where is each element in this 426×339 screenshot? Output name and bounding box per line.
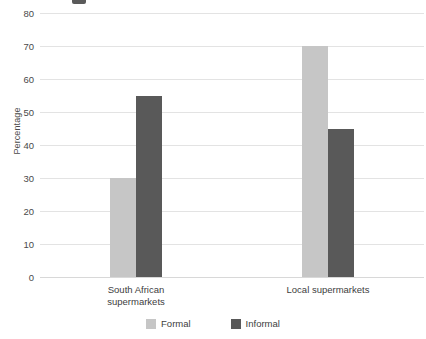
legend-swatch-icon (146, 319, 156, 329)
y-axis-tick-label: 0 (29, 272, 34, 283)
bar-informal (136, 96, 162, 278)
legend-swatch-icon (231, 319, 241, 329)
bar-chart: Percentage 80706050403020100 South Afric… (0, 0, 426, 339)
plot-area: 80706050403020100 (40, 13, 424, 277)
legend-item[interactable]: Informal (231, 318, 280, 329)
bar-group (232, 13, 424, 277)
chart-legend: FormalInformal (0, 318, 426, 329)
cropped-top-artifact (72, 0, 86, 4)
y-axis-tick-label: 70 (23, 41, 34, 52)
y-axis-tick-label: 20 (23, 206, 34, 217)
x-axis-category-label: South African supermarkets (40, 284, 232, 307)
legend-label: Formal (161, 318, 191, 329)
bar-formal (302, 46, 328, 277)
bar-formal (110, 178, 136, 277)
bar-informal (328, 129, 354, 278)
legend-label: Informal (246, 318, 280, 329)
y-axis-tick-label: 80 (23, 8, 34, 19)
y-axis-tick-label: 30 (23, 173, 34, 184)
x-axis-category-label: Local supermarkets (232, 284, 424, 296)
legend-item[interactable]: Formal (146, 318, 191, 329)
bar-group (40, 13, 232, 277)
y-axis-tick-label: 60 (23, 74, 34, 85)
bar-series-container (40, 13, 424, 277)
y-axis-tick-label: 50 (23, 107, 34, 118)
gridline: 0 (40, 277, 424, 278)
y-axis-tick-label: 10 (23, 239, 34, 250)
y-axis-title: Percentage (12, 86, 22, 176)
y-axis-tick-label: 40 (23, 140, 34, 151)
